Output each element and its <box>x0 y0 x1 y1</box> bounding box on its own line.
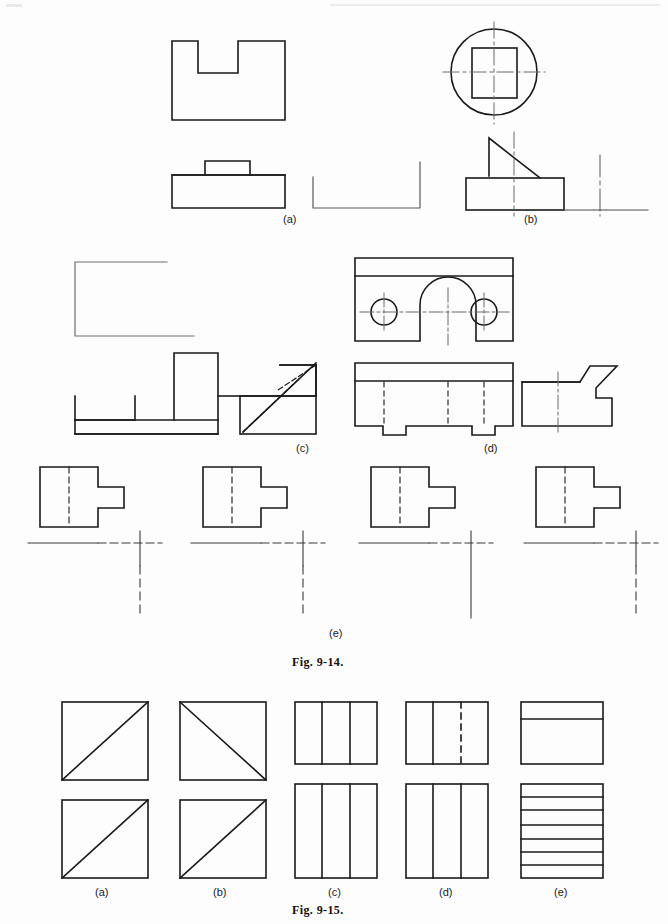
fig915d-top-rect <box>406 702 488 764</box>
fig914c-side-upper <box>280 365 316 396</box>
fig915b-front-diagonal <box>180 800 266 878</box>
fig914c-side-rect <box>240 396 316 434</box>
textbook-page: (a) (b) (c) (d) (e) Fig. 9-14. (a) (b) (… <box>0 0 668 924</box>
fig915-part-label-c: (c) <box>328 886 341 898</box>
fig914-part-label-e: (e) <box>329 627 342 639</box>
fig914b-front-block <box>466 178 564 210</box>
fig915-part-label-e: (e) <box>554 886 567 898</box>
fig914a-top-view <box>172 41 285 120</box>
fig914d-right-hole <box>471 299 497 325</box>
fig915-part-label-b: (b) <box>213 886 226 898</box>
drawing-canvas <box>0 0 668 924</box>
fig915b-top-diagonal <box>180 702 266 780</box>
fig915-part-label-a: (a) <box>95 886 108 898</box>
fig914c-partial-top-view <box>75 262 194 336</box>
figure-caption-9-14: Fig. 9-14. <box>292 655 344 670</box>
fig914d-top-plate <box>355 258 513 341</box>
fig915b-front-square <box>180 800 266 878</box>
fig914c-side-diagonal <box>243 363 316 432</box>
fig915-part-label-d: (d) <box>439 886 452 898</box>
fig914-part-label-a: (a) <box>283 213 296 225</box>
fig915a-top-diagonal <box>62 702 148 780</box>
fig914d-side-view <box>522 366 617 426</box>
fig914d-front-view <box>355 363 513 435</box>
fig914b-top-circle <box>451 29 537 115</box>
figure-caption-9-15: Fig. 9-15. <box>292 903 344 918</box>
fig914-part-label-b: (b) <box>524 213 537 225</box>
fig914e-unit2-shape <box>203 467 287 527</box>
fig914a-blank-frame <box>313 162 420 208</box>
fig914a-front-base <box>172 175 285 208</box>
fig914c-side-hidden-diagonal <box>243 378 300 432</box>
fig914c-front-profile-right <box>75 353 218 434</box>
fig915e-front-rect <box>521 784 603 878</box>
fig914e-unit1-shape <box>40 467 124 527</box>
page-edge-mark-right <box>330 4 660 6</box>
fig915b-top-square <box>180 702 266 780</box>
fig915c-top-rect <box>295 702 377 764</box>
fig915a-front-square <box>62 800 148 878</box>
fig914b-front-rib <box>489 138 540 178</box>
fig915a-top-square <box>62 702 148 780</box>
fig914-part-label-c: (c) <box>296 442 309 454</box>
fig915a-front-diagonal <box>62 800 148 878</box>
fig914c-front-left-step <box>75 396 135 420</box>
fig914e-unit3-shape <box>371 467 455 527</box>
fig914d-left-hole <box>371 299 397 325</box>
page-edge-mark-left <box>6 4 22 7</box>
fig914b-top-square <box>472 48 517 98</box>
fig914a-front-block <box>205 161 250 175</box>
fig914c-side-hidden-upper <box>278 365 316 390</box>
fig915e-top-rect <box>521 702 603 764</box>
fig915c-front-rect <box>295 784 377 878</box>
fig914e-unit4-shape <box>536 467 620 527</box>
fig914-part-label-d: (d) <box>484 442 497 454</box>
fig915d-front-rect <box>406 784 488 878</box>
